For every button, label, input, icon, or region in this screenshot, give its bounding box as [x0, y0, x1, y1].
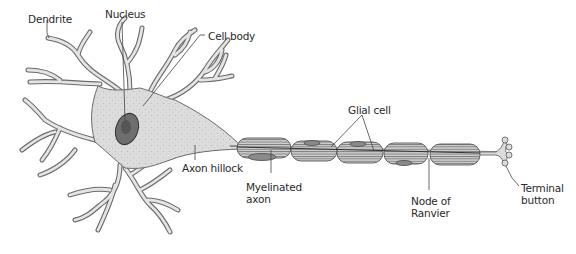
label-nucleus: Nucleus [105, 8, 145, 20]
cell-body-shape [92, 86, 240, 168]
label-axon-hillock: Axon hillock [182, 162, 243, 174]
neuron-diagram: Dendrite Nucleus Cell body Glial cell Ax… [0, 0, 576, 254]
label-node-of-ranvier-line1: Node of [411, 195, 450, 207]
label-terminal-button-line1: Terminal [521, 182, 564, 194]
terminal-button-leader [506, 166, 519, 186]
label-terminal-button-line2: button [521, 194, 554, 206]
label-myelinated-axon-line2: axon [246, 193, 271, 205]
neuron-illustration [0, 0, 576, 254]
label-dendrite: Dendrite [28, 13, 72, 25]
label-myelinated-axon-line1: Myelinated [246, 181, 302, 193]
label-cell-body: Cell body [208, 30, 255, 42]
label-glial-cell: Glial cell [348, 104, 391, 116]
label-node-of-ranvier-line2: Ranvier [411, 207, 450, 219]
